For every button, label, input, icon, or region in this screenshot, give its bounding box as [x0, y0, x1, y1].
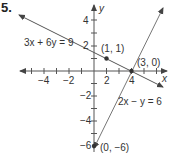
point-1-1	[104, 56, 108, 60]
coordinate-graph: 5. 3x + 6y = 9 2x − y = 6 y x −4 −2 2 4 …	[0, 0, 170, 157]
y-axis	[91, 5, 97, 152]
point-0-neg6	[92, 144, 96, 148]
point-label-0-neg6: (0, −6)	[100, 142, 129, 153]
y-tick-4: 4	[83, 15, 89, 26]
point-3-0	[129, 69, 133, 73]
point-label-1-1: (1, 1)	[101, 43, 124, 54]
x-tick-neg4: −4	[38, 75, 50, 86]
y-tick-neg2: −2	[80, 90, 92, 101]
problem-number: 5.	[1, 0, 12, 15]
equation-label-1: 3x + 6y = 9	[24, 37, 74, 48]
equation-label-2: 2x − y = 6	[118, 96, 162, 107]
y-tick-neg4: −4	[80, 115, 92, 126]
x-axis-label: x	[161, 73, 168, 84]
x-tick-2: 2	[104, 75, 110, 86]
y-axis-label: y	[98, 3, 105, 14]
y-tick-2: 2	[83, 40, 89, 51]
x-tick-neg2: −2	[63, 75, 75, 86]
x-tick-4: 4	[129, 75, 135, 86]
y-tick-neg6: −6	[80, 140, 92, 151]
point-label-3-0: (3, 0)	[137, 57, 160, 68]
